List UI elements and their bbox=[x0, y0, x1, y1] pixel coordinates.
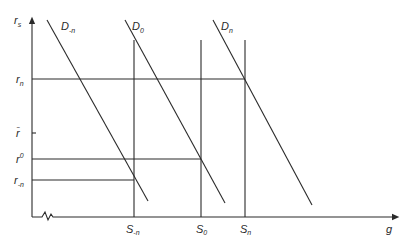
dn-label: D bbox=[221, 20, 229, 32]
rate-lines bbox=[32, 79, 245, 180]
svg-text:r0: r0 bbox=[16, 152, 24, 165]
svg-text:D-n: D-n bbox=[61, 20, 75, 34]
d-minus-n-label: D bbox=[61, 20, 69, 32]
x-axis: g bbox=[32, 212, 396, 235]
svg-text:S-n: S-n bbox=[126, 223, 140, 236]
y-axis-label-sub: s bbox=[18, 21, 22, 28]
svg-text:r-n: r-n bbox=[14, 174, 24, 188]
demand-curve-n bbox=[213, 20, 312, 205]
svg-text:rs: rs bbox=[14, 14, 22, 28]
demand-curve-minus-n bbox=[47, 20, 148, 201]
x-axis-label: g bbox=[386, 223, 393, 235]
r-bar-label: r̄ bbox=[16, 127, 21, 139]
demand-labels: D-n D0 Dn bbox=[61, 20, 233, 34]
demand-curves bbox=[47, 20, 312, 205]
svg-text:D0: D0 bbox=[132, 20, 144, 34]
demand-curve-0 bbox=[125, 20, 225, 203]
svg-text:S0: S0 bbox=[196, 223, 207, 236]
rate-supply-demand-diagram: rs g rn r̄ r0 r-n S-n S0 Sn D-n D0 bbox=[0, 0, 416, 243]
svg-text:Dn: Dn bbox=[221, 20, 233, 34]
rate-labels: rn r̄ r0 r-n bbox=[14, 73, 24, 188]
d0-label: D bbox=[132, 20, 140, 32]
svg-text:Sn: Sn bbox=[240, 223, 251, 236]
svg-text:rn: rn bbox=[16, 73, 24, 87]
supply-labels: S-n S0 Sn bbox=[126, 223, 251, 236]
